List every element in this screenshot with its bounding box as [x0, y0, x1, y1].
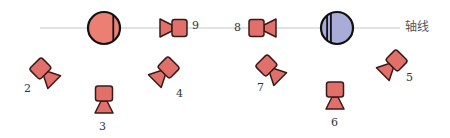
diagram-canvas — [0, 0, 450, 138]
camera-label-9: 9 — [192, 20, 199, 31]
right-sphere — [321, 12, 353, 44]
camera-9-icon — [160, 19, 187, 37]
camera-label-4: 4 — [176, 88, 183, 99]
camera-2-icon — [29, 57, 61, 89]
camera-6-icon — [326, 82, 344, 109]
camera-label-3: 3 — [99, 121, 106, 132]
camera-label-8: 8 — [234, 22, 241, 33]
camera-4-icon — [148, 56, 180, 88]
camera-label-6: 6 — [331, 117, 338, 128]
camera-label-2: 2 — [24, 83, 31, 94]
camera-label-5: 5 — [406, 72, 413, 83]
camera-5-icon — [376, 49, 408, 81]
camera-8-icon — [249, 19, 276, 37]
camera-label-7: 7 — [257, 82, 264, 93]
left-sphere — [88, 12, 120, 44]
camera-layout-diagram: 轴线 23456789 — [0, 0, 450, 138]
camera-3-icon — [95, 86, 113, 113]
axis-label: 轴线 — [405, 21, 429, 33]
